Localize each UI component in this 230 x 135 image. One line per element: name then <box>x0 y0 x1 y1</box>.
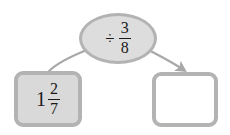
operation-oval: ÷ 3 8 <box>79 13 157 64</box>
input-fraction: 2 7 <box>48 81 60 117</box>
fraction-operation-diagram: ÷ 3 8 1 2 7 <box>0 0 230 135</box>
input-fraction-numerator: 2 <box>48 81 60 99</box>
input-expression: 1 2 7 <box>36 81 60 117</box>
operation-fraction-denominator: 8 <box>119 38 131 57</box>
input-value-box: 1 2 7 <box>14 71 82 127</box>
operation-expression: ÷ 3 8 <box>105 20 130 56</box>
operation-fraction-numerator: 3 <box>119 20 131 38</box>
division-operator-symbol: ÷ <box>105 30 114 47</box>
answer-box[interactable] <box>152 72 218 127</box>
input-whole-number: 1 <box>36 89 46 109</box>
operation-fraction: 3 8 <box>119 20 131 56</box>
connector-input-to-operation <box>49 51 86 72</box>
input-fraction-denominator: 7 <box>48 99 60 118</box>
connector-operation-to-output <box>152 52 182 69</box>
